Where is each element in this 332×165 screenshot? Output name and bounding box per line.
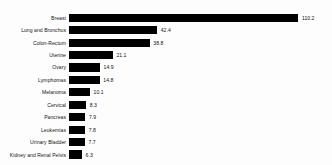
bar-row: Lymphomas 14.8 xyxy=(0,74,332,86)
bar-track: 7.8 xyxy=(69,123,332,135)
bar-value-label: 8.3 xyxy=(86,102,97,108)
bar-row: Cervical 8.3 xyxy=(0,99,332,111)
bar-track: 8.3 xyxy=(69,99,332,111)
bar-value-label: 7.8 xyxy=(85,127,96,133)
bar-row: Melanoma 10.1 xyxy=(0,86,332,98)
category-label: Kidney and Renal Pelvis xyxy=(0,152,69,158)
bar-breast[interactable] xyxy=(69,14,298,22)
bar-value-label: 6.3 xyxy=(82,152,93,158)
bar-value-label: 7.7 xyxy=(85,139,96,145)
bar-row: Ovary 14.9 xyxy=(0,61,332,73)
bar-track: 21.1 xyxy=(69,49,332,61)
category-label: Lung and Bronchus xyxy=(0,27,69,33)
bar-track: 6.3 xyxy=(69,148,332,160)
bar-row: Uterine 21.1 xyxy=(0,49,332,61)
bar-value-label: 7.9 xyxy=(85,114,96,120)
category-label: Melanoma xyxy=(0,89,69,95)
category-label: Lymphomas xyxy=(0,77,69,83)
bar-uterine[interactable] xyxy=(69,51,113,59)
bar-kidney-and-renal-pelvis[interactable] xyxy=(69,150,82,158)
bar-row: Kidney and Renal Pelvis 6.3 xyxy=(0,148,332,160)
bar-colon-rectum[interactable] xyxy=(69,39,150,47)
bar-track: 14.8 xyxy=(69,74,332,86)
bar-value-label: 10.1 xyxy=(90,89,104,95)
bar-track: 14.9 xyxy=(69,61,332,73)
bar-row: Urinary Bladder 7.7 xyxy=(0,136,332,148)
bar-value-label: 110.2 xyxy=(298,15,314,21)
bar-value-label: 21.1 xyxy=(113,52,127,58)
category-label: Urinary Bladder xyxy=(0,139,69,145)
bar-pancreas[interactable] xyxy=(69,113,85,121)
bar-row: Lung and Bronchus 42.4 xyxy=(0,24,332,36)
bar-lung-and-bronchus[interactable] xyxy=(69,26,157,34)
bar-value-label: 42.4 xyxy=(157,27,171,33)
bar-chart: Breast 110.2 Lung and Bronchus 42.4 Colo… xyxy=(0,0,332,165)
bar-lymphomas[interactable] xyxy=(69,76,100,84)
category-label: Ovary xyxy=(0,64,69,70)
bar-track: 10.1 xyxy=(69,86,332,98)
category-label: Cervical xyxy=(0,102,69,108)
bar-track: 42.4 xyxy=(69,24,332,36)
category-label: Pancreas xyxy=(0,114,69,120)
bar-value-label: 38.8 xyxy=(150,40,164,46)
bar-track: 110.2 xyxy=(69,12,332,24)
bar-row: Breast 110.2 xyxy=(0,12,332,24)
category-label: Colon-Rectum xyxy=(0,40,69,46)
bar-row: Pancreas 7.9 xyxy=(0,111,332,123)
bar-urinary-bladder[interactable] xyxy=(69,138,85,146)
category-label: Leukemias xyxy=(0,127,69,133)
category-label: Breast xyxy=(0,15,69,21)
bar-cervical[interactable] xyxy=(69,101,86,109)
bar-value-label: 14.8 xyxy=(100,77,114,83)
bar-track: 7.7 xyxy=(69,136,332,148)
bar-row: Colon-Rectum 38.8 xyxy=(0,36,332,48)
bar-value-label: 14.9 xyxy=(100,64,114,70)
bar-leukemias[interactable] xyxy=(69,126,85,134)
chart-rows: Breast 110.2 Lung and Bronchus 42.4 Colo… xyxy=(0,12,332,161)
bar-track: 38.8 xyxy=(69,36,332,48)
bar-track: 7.9 xyxy=(69,111,332,123)
category-label: Uterine xyxy=(0,52,69,58)
bar-melanoma[interactable] xyxy=(69,88,90,96)
bar-row: Leukemias 7.8 xyxy=(0,123,332,135)
bar-ovary[interactable] xyxy=(69,63,100,71)
